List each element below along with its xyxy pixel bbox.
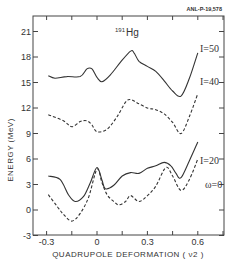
- curve-label: I=50: [200, 43, 219, 54]
- curve-label: I=40: [200, 76, 219, 87]
- x-tick-label: 0.3: [141, 237, 154, 247]
- x-axis-title: QUADRUPOLE DEFORMATION ( ν2 ): [52, 250, 204, 259]
- energy-deformation-chart: ANL-P-19,578 -3036912151821 -0.300.30.6 …: [0, 0, 236, 270]
- nuclide-label: 191Hg: [115, 27, 139, 38]
- x-tick-label: 0.6: [192, 237, 205, 247]
- curve-label: I=20: [200, 155, 219, 166]
- curve-labels: I=50I=40I=20ω=0: [200, 43, 222, 190]
- x-tick-label: 0: [94, 237, 99, 247]
- y-tick-label: 18: [21, 52, 31, 62]
- y-axis: -3036912151821: [21, 27, 224, 241]
- curve-i40: [48, 94, 198, 134]
- curve-label: ω=0: [205, 179, 222, 190]
- y-tick-label: 3: [26, 180, 31, 190]
- y-tick-label: 9: [26, 129, 31, 139]
- curve-0: [48, 159, 198, 221]
- y-tick-label: 21: [21, 27, 31, 37]
- y-tick-label: -3: [23, 231, 31, 241]
- reference-id: ANL-P-19,578: [187, 6, 222, 12]
- plot-frame: [33, 16, 224, 235]
- curve-i50: [48, 50, 198, 96]
- y-tick-label: 15: [21, 78, 31, 88]
- x-tick-label: -0.3: [39, 237, 55, 247]
- curve-i20: [48, 142, 198, 202]
- y-tick-label: 6: [26, 154, 31, 164]
- y-axis-title: ENERGY (MeV): [6, 118, 15, 182]
- nuclide-mass: 191: [115, 27, 126, 33]
- curves: [48, 50, 198, 221]
- y-tick-label: 0: [26, 205, 31, 215]
- y-tick-label: 12: [21, 103, 31, 113]
- nuclide-symbol: Hg: [126, 27, 139, 38]
